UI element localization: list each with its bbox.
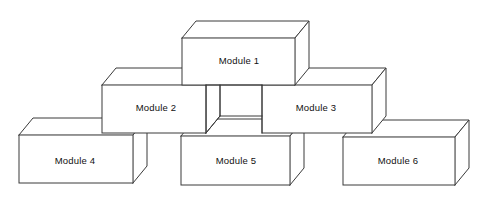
- module-2-label: Module 2: [136, 102, 177, 113]
- module-6-label: Module 6: [378, 155, 419, 166]
- module-4-label: Module 4: [55, 155, 96, 166]
- module-3-label: Module 3: [296, 102, 337, 113]
- module-1-label: Module 1: [219, 55, 260, 66]
- module-5-label: Module 5: [216, 155, 257, 166]
- module-stack-diagram: Module 4 Module 5 Module 6 Module 2: [0, 0, 479, 200]
- module-1-top-face: [182, 21, 309, 38]
- diagram-canvas: Module 4 Module 5 Module 6 Module 2: [0, 0, 479, 200]
- module-1-box[interactable]: Module 1: [182, 21, 309, 85]
